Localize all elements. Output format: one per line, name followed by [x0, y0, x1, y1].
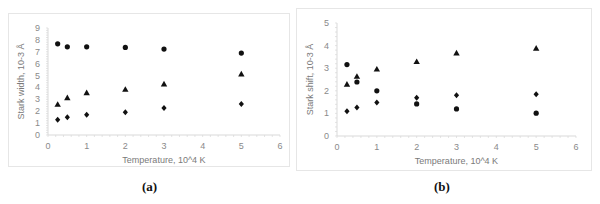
x-tick-label: 0 — [45, 141, 50, 151]
diamond-marker — [414, 95, 419, 101]
circle-marker — [354, 79, 359, 84]
chart-panel-a: 01234560123456789Temperature, 10^4 KStar… — [8, 13, 290, 167]
circle-marker — [123, 45, 128, 50]
x-tick-label: 3 — [161, 141, 166, 151]
diamond-marker — [123, 109, 128, 115]
y-tick-label: 2 — [35, 106, 40, 116]
diamond-marker — [454, 92, 459, 98]
triangle-marker — [413, 58, 419, 64]
caption-a-text: (a) — [142, 179, 157, 194]
circle-marker — [414, 101, 419, 106]
circle-marker — [55, 41, 60, 46]
diamond-marker — [354, 105, 359, 111]
x-tick-label: 1 — [84, 141, 89, 151]
x-tick-label: 2 — [414, 142, 419, 152]
circle-marker — [454, 106, 459, 111]
circle-marker — [374, 88, 379, 93]
x-tick-label: 0 — [334, 142, 339, 152]
x-tick-label: 5 — [239, 141, 244, 151]
x-tick-label: 4 — [200, 141, 205, 151]
y-tick-label: 1 — [324, 108, 329, 118]
diamond-marker — [161, 105, 166, 111]
caption-b-text: (b) — [434, 179, 450, 194]
y-tick-label: 6 — [35, 59, 40, 69]
triangle-marker — [238, 71, 244, 77]
diamond-marker — [65, 114, 70, 120]
x-axis-title: Temperature, 10^4 K — [122, 155, 205, 165]
x-tick-label: 3 — [454, 142, 459, 152]
y-tick-label: 4 — [35, 82, 40, 92]
triangle-marker — [64, 95, 70, 101]
diamond-marker — [55, 117, 60, 123]
circle-marker — [161, 46, 166, 51]
triangle-marker — [533, 45, 539, 51]
x-tick-label: 4 — [494, 142, 499, 152]
circle-marker — [84, 44, 89, 49]
y-tick-label: 3 — [324, 63, 329, 73]
chart-panel-b: 0123456012345Temperature, 10^4 KStark sh… — [296, 8, 592, 171]
diamond-marker — [374, 100, 379, 106]
circle-marker — [65, 44, 70, 49]
circle-marker — [344, 62, 349, 67]
triangle-marker — [54, 101, 60, 107]
triangle-marker — [354, 73, 360, 79]
y-tick-label: 5 — [324, 18, 329, 28]
diamond-marker — [534, 91, 539, 97]
y-tick-label: 4 — [324, 41, 329, 51]
triangle-marker — [374, 66, 380, 72]
x-tick-label: 6 — [573, 142, 578, 152]
x-axis-title: Temperature, 10^4 K — [415, 156, 498, 166]
caption-a: (a) — [142, 179, 157, 195]
triangle-marker — [83, 90, 89, 96]
circle-marker — [239, 50, 244, 55]
y-axis-title: Stark width, 10-3 Å — [16, 43, 26, 119]
triangle-marker — [122, 86, 128, 92]
triangle-marker — [344, 81, 350, 87]
y-axis-title: Stark shift, 10-3 Å — [305, 44, 315, 116]
triangle-marker — [453, 50, 459, 56]
x-tick-label: 6 — [277, 141, 282, 151]
y-tick-label: 9 — [35, 23, 40, 33]
y-tick-label: 1 — [35, 118, 40, 128]
circle-marker — [534, 111, 539, 116]
y-tick-label: 7 — [35, 47, 40, 57]
y-tick-label: 2 — [324, 86, 329, 96]
chart-a-svg: 01234560123456789Temperature, 10^4 KStar… — [9, 14, 289, 166]
diamond-marker — [84, 112, 89, 118]
x-tick-label: 5 — [534, 142, 539, 152]
diamond-marker — [344, 108, 349, 114]
y-tick-label: 8 — [35, 35, 40, 45]
y-tick-label: 5 — [35, 71, 40, 81]
y-tick-label: 0 — [35, 130, 40, 140]
y-tick-label: 3 — [35, 94, 40, 104]
triangle-marker — [161, 81, 167, 87]
x-tick-label: 2 — [123, 141, 128, 151]
diamond-marker — [239, 101, 244, 107]
y-tick-label: 0 — [324, 131, 329, 141]
caption-b: (b) — [434, 179, 450, 195]
chart-b-svg: 0123456012345Temperature, 10^4 KStark sh… — [297, 9, 591, 170]
x-tick-label: 1 — [374, 142, 379, 152]
